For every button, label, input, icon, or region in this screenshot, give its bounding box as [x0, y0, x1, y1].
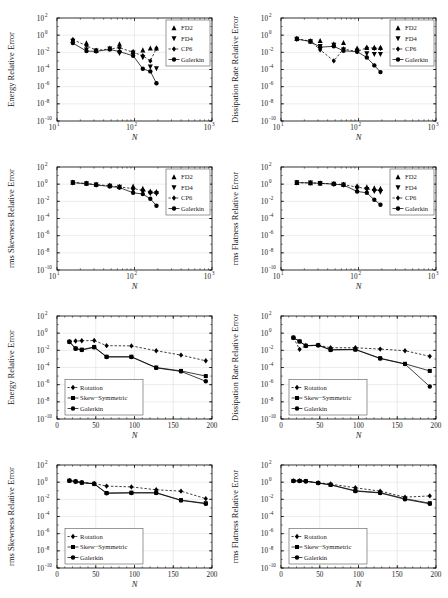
data-point-marker — [148, 69, 152, 73]
legend[interactable]: FD2FD4CP6Galerkin — [390, 20, 434, 66]
y-tick-label: 10 — [37, 66, 45, 74]
x-tick-label: 150 — [392, 422, 403, 430]
y-tick-label: 10 — [261, 215, 269, 223]
data-point-marker — [353, 489, 357, 493]
y-tick-labels: 20-2-4-6-8-10 — [45, 12, 52, 121]
legend-label: Galerkin — [181, 56, 205, 63]
x-tick-label: 100 — [129, 571, 140, 579]
series-group — [67, 338, 208, 384]
series-markers — [71, 41, 159, 86]
y-tick-exponent: -4 — [45, 63, 50, 69]
x-tick-labels: 101102103 — [49, 270, 215, 281]
x-tick-label: 0 — [279, 571, 283, 579]
y-tick-exponent: -6 — [45, 378, 50, 384]
y-tick-exponent: -10 — [45, 562, 52, 568]
x-axis-label: N — [131, 579, 139, 589]
data-point-marker — [154, 491, 158, 495]
y-axis-label: rms Flatness Relative Error — [230, 172, 240, 265]
data-point-marker — [105, 483, 109, 488]
y-tick-exponent: 2 — [45, 459, 48, 465]
data-point-marker — [129, 484, 133, 489]
data-point-marker — [94, 49, 98, 53]
legend[interactable]: RotationSkew−SymmetricGalerkin — [289, 380, 367, 416]
panel-dissipation-forms: 1010101010101020-2-4-6-8-10050100150200D… — [224, 298, 448, 447]
data-point-marker — [108, 47, 112, 51]
data-point-marker — [378, 356, 382, 360]
x-tick-exponent: 2 — [359, 270, 362, 276]
y-tick-label: 10 — [261, 565, 269, 573]
legend-label: Galerkin — [405, 205, 429, 212]
y-tick-exponent: -4 — [269, 361, 274, 367]
series-markers — [67, 478, 208, 501]
data-point-marker — [80, 348, 84, 352]
data-point-marker — [298, 347, 302, 352]
data-point-marker — [295, 555, 299, 559]
legend-label: CP6 — [405, 194, 417, 201]
data-point-marker — [304, 479, 308, 483]
data-point-marker — [131, 54, 135, 58]
series-markers — [291, 335, 432, 359]
figure-grid: 1010101010101020-2-4-6-8-10101102103Ener… — [0, 0, 448, 598]
y-tick-exponent: 0 — [269, 29, 272, 35]
y-tick-exponent: -8 — [45, 98, 50, 104]
data-point-marker — [341, 49, 345, 53]
y-tick-label: 10 — [261, 330, 269, 338]
data-point-marker — [154, 190, 158, 195]
data-point-marker — [84, 49, 88, 53]
legend-label: FD4 — [181, 184, 193, 191]
data-point-marker — [117, 185, 121, 189]
legend-label: Rotation — [80, 533, 103, 540]
legend[interactable]: RotationSkew−SymmetricGalerkin — [65, 380, 143, 416]
y-axis-label: Energy Relative Error — [6, 330, 16, 405]
data-point-marker — [74, 338, 78, 343]
y-tick-exponent: -8 — [45, 396, 50, 402]
y-tick-labels: 20-2-4-6-8-10 — [45, 459, 52, 568]
data-point-marker — [328, 348, 332, 352]
data-point-marker — [108, 184, 112, 188]
y-tick-labels: 20-2-4-6-8-10 — [269, 161, 276, 270]
panel-flatness-schemes: 1010101010101020-2-4-6-8-10101102103rms … — [224, 149, 448, 298]
data-point-marker — [378, 70, 382, 74]
y-tick-exponent: -4 — [45, 212, 50, 218]
series-markers — [291, 479, 431, 505]
series-markers — [71, 180, 159, 196]
x-tick-label: 150 — [168, 571, 179, 579]
data-point-marker — [428, 502, 432, 506]
legend[interactable]: FD2FD4CP6Galerkin — [166, 20, 210, 66]
x-axis-label: N — [131, 281, 139, 291]
panel-skewness-schemes: 1010101010101020-2-4-6-8-10101102103rms … — [0, 149, 224, 298]
data-point-marker — [131, 191, 135, 195]
legend[interactable]: RotationSkew−SymmetricGalerkin — [289, 529, 367, 565]
data-point-marker — [291, 479, 295, 483]
legend-label: CP6 — [405, 45, 417, 52]
legend[interactable]: FD2FD4CP6Galerkin — [390, 169, 434, 215]
data-point-marker — [104, 355, 108, 359]
legend[interactable]: FD2FD4CP6Galerkin — [166, 169, 210, 215]
series-markers — [70, 38, 159, 54]
data-point-marker — [372, 187, 376, 192]
series-line — [297, 39, 381, 72]
data-point-marker — [129, 343, 133, 348]
data-point-marker — [332, 44, 336, 48]
y-axis-label: rms Skewness Relative Error — [6, 169, 16, 268]
data-point-marker — [428, 384, 432, 388]
x-tick-label: 10 — [49, 124, 57, 132]
x-tick-label: 10 — [126, 273, 134, 281]
y-tick-exponent: -2 — [45, 493, 50, 499]
x-tick-exponent: 3 — [436, 270, 439, 276]
x-tick-label: 150 — [168, 422, 179, 430]
data-point-marker — [67, 478, 71, 482]
y-tick-exponent: -8 — [269, 545, 274, 551]
y-tick-exponent: -2 — [45, 195, 50, 201]
data-point-marker — [148, 58, 152, 63]
y-tick-label: 10 — [37, 530, 45, 538]
y-tick-label: 10 — [37, 215, 45, 223]
legend[interactable]: RotationSkew−SymmetricGalerkin — [65, 529, 143, 565]
y-tick-label: 10 — [37, 565, 45, 573]
data-point-marker — [154, 66, 159, 71]
x-tick-label: 0 — [279, 422, 283, 430]
data-point-marker — [73, 479, 77, 483]
data-point-marker — [403, 497, 407, 501]
y-tick-exponent: 0 — [45, 178, 48, 184]
x-axis-label: N — [355, 281, 363, 291]
